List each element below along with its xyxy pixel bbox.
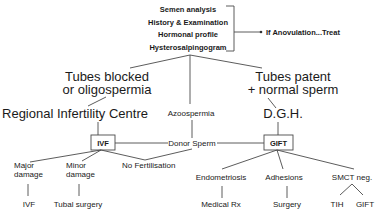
- ivf-box-label: IVF: [97, 139, 109, 148]
- gift-outcome-label: GIFT: [356, 200, 374, 209]
- branch-left-line2: or oligospermia: [63, 82, 153, 97]
- surgery-label: Surgery: [273, 200, 301, 209]
- gift-box-label: GIFT: [270, 139, 287, 148]
- minor-outcome-tubal-surgery: Tubal surgery: [54, 200, 103, 209]
- line-gift-to-adhesions: [277, 150, 283, 169]
- test-history-exam: History & Examination: [148, 18, 228, 27]
- line-left-to-regional: [88, 97, 106, 106]
- test-semen-analysis: Semen analysis: [160, 5, 216, 14]
- anovulation-label: If Anovulation...Treat: [266, 28, 340, 37]
- line-donor-to-nofert: [145, 149, 192, 160]
- line-smct-to-gift: [352, 184, 363, 195]
- branch-right-line2: + normal sperm: [248, 82, 339, 97]
- major-damage-line1: Major: [14, 161, 34, 170]
- major-damage-line2: damage: [14, 170, 43, 179]
- line-ivf-to-nofert: [101, 150, 145, 160]
- azoospermia-label: Azoospermia: [168, 109, 215, 118]
- line-gift-to-endometriosis: [222, 150, 277, 169]
- tih-label: TIH: [331, 200, 344, 209]
- minor-damage-line1: Minor: [66, 161, 86, 170]
- no-fertilisation-label: No Fertilisation: [122, 161, 175, 170]
- line-tests-right: [190, 55, 262, 68]
- line-smct-to-tih: [340, 184, 352, 195]
- line-gift-to-smct: [277, 150, 354, 169]
- major-outcome-ivf: IVF: [23, 200, 36, 209]
- donor-sperm-label: Donor Sperm: [168, 139, 216, 148]
- smct-label: SMCT neg.: [332, 173, 372, 182]
- test-hormonal-profile: Hormonal profile: [158, 30, 218, 39]
- regional-centre-label: Regional Infertility Centre: [2, 106, 148, 121]
- line-tests-left: [130, 55, 190, 68]
- test-hysterosalpingogram: Hysterosalpingogram: [149, 43, 226, 52]
- arrow-head: [260, 31, 263, 34]
- medical-rx-label: Medical Rx: [201, 200, 241, 209]
- infertility-flowchart: Semen analysis History & Examination Hor…: [0, 0, 387, 220]
- minor-damage-line2: damage: [66, 170, 95, 179]
- dgh-label: D.G.H.: [263, 106, 303, 121]
- tests-bracket: [226, 6, 234, 51]
- adhesions-label: Adhesions: [265, 173, 302, 182]
- endometriosis-label: Endometriosis: [196, 173, 247, 182]
